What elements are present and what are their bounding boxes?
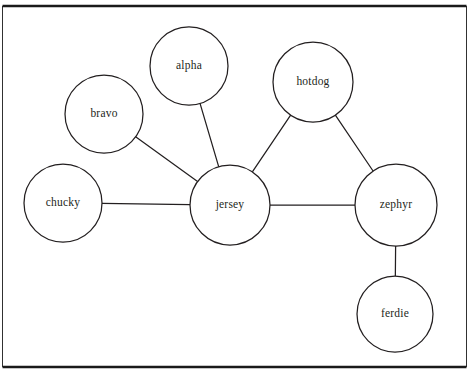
graph-edge-alpha-jersey xyxy=(200,103,219,166)
graph-node-alpha[interactable]: alpha xyxy=(150,27,228,105)
graph-edge-chucky-jersey xyxy=(102,203,190,204)
node-label-bravo: bravo xyxy=(90,107,117,119)
node-label-chucky: chucky xyxy=(46,196,80,209)
graph-node-jersey[interactable]: jersey xyxy=(190,165,270,245)
node-layer: alphabravohotdogchuckyjerseyzephyrferdie xyxy=(24,27,437,352)
graph-edge-hotdog-zephyr xyxy=(335,115,373,171)
node-label-ferdie: ferdie xyxy=(381,307,409,319)
graph-node-bravo[interactable]: bravo xyxy=(65,75,143,153)
graph-edge-bravo-jersey xyxy=(136,137,198,182)
graph-node-chucky[interactable]: chucky xyxy=(24,164,102,242)
graph-node-ferdie[interactable]: ferdie xyxy=(357,276,433,352)
graph-node-zephyr[interactable]: zephyr xyxy=(355,164,437,246)
node-label-jersey: jersey xyxy=(215,198,245,211)
node-label-alpha: alpha xyxy=(176,59,202,72)
graph-node-hotdog[interactable]: hotdog xyxy=(273,42,353,122)
graph-edge-hotdog-jersey xyxy=(252,115,290,172)
node-label-hotdog: hotdog xyxy=(296,75,329,88)
node-label-zephyr: zephyr xyxy=(380,198,413,211)
graph-frame: alphabravohotdogchuckyjerseyzephyrferdie xyxy=(0,0,476,378)
node-link-diagram: alphabravohotdogchuckyjerseyzephyrferdie xyxy=(0,0,476,378)
